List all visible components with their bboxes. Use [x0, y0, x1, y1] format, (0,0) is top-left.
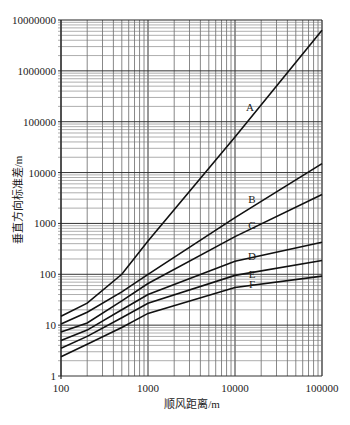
y-tick-label: 10000000 — [12, 14, 57, 26]
y-tick-label: 10000 — [29, 167, 57, 179]
y-tick-label: 10 — [45, 319, 57, 331]
grid — [58, 20, 322, 379]
y-tick-label: 1 — [51, 370, 57, 382]
x-tick-label: 100 — [53, 382, 70, 394]
curve-label-a: A — [246, 101, 254, 113]
y-tick-label: 1000 — [34, 217, 57, 229]
curve-label-f: F — [249, 278, 255, 290]
curve-f — [61, 276, 322, 357]
x-tick-labels: 100100010000100000 — [53, 382, 339, 394]
x-axis-title: 顺风距离/m — [164, 397, 220, 410]
curve-c — [61, 195, 322, 333]
curve-label-d: D — [248, 250, 256, 262]
x-tick-label: 100000 — [306, 382, 340, 394]
y-tick-label: 100 — [40, 268, 57, 280]
curve-label-b: B — [248, 193, 255, 205]
y-axis-title: 垂直方向标准差/m — [11, 155, 24, 244]
y-tick-label: 1000000 — [18, 65, 57, 77]
curve-label-c: C — [248, 219, 255, 231]
x-tick-label: 1000 — [137, 382, 160, 394]
curves — [61, 30, 322, 357]
x-tick-label: 10000 — [221, 382, 249, 394]
log-log-chart: ABCDEF 100100010000100000 11010010001000… — [0, 0, 350, 425]
y-tick-label: 100000 — [23, 116, 57, 128]
